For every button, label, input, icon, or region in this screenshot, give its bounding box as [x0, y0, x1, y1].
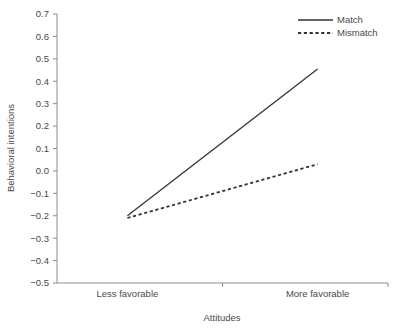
x-axis-ticks [223, 283, 389, 287]
line-chart: 0.70.60.50.40.30.20.10.0−0.1−0.2−0.3−0.4… [0, 0, 404, 330]
y-tick-label: −0.1 [30, 188, 49, 199]
y-tick-label: 0.3 [36, 98, 49, 109]
x-axis-title: Attitudes [204, 312, 241, 323]
chart-legend: MatchMismatch [298, 14, 378, 38]
y-tick-label: 0.7 [36, 8, 49, 19]
x-axis-tick-labels: Less favorableMore favorable [96, 288, 349, 299]
x-tick-label: More favorable [286, 288, 349, 299]
data-series-group [127, 69, 317, 218]
y-tick-label: −0.5 [30, 277, 49, 288]
y-tick-label: 0.0 [36, 165, 49, 176]
legend-label-match: Match [337, 14, 363, 25]
y-tick-label: 0.2 [36, 120, 49, 131]
y-tick-label: −0.4 [30, 255, 49, 266]
y-tick-label: −0.2 [30, 210, 49, 221]
y-tick-label: 0.1 [36, 143, 49, 154]
x-tick-label: Less favorable [96, 288, 158, 299]
legend-label-mismatch: Mismatch [337, 27, 378, 38]
chart-container: 0.70.60.50.40.30.20.10.0−0.1−0.2−0.3−0.4… [0, 0, 404, 330]
y-axis-title: Behavioral intentions [5, 104, 16, 192]
y-tick-label: 0.4 [36, 76, 49, 87]
y-tick-label: 0.6 [36, 31, 49, 42]
y-axis-ticks [53, 14, 57, 283]
y-tick-label: −0.3 [30, 233, 49, 244]
series-line-mismatch [127, 164, 317, 218]
series-line-match [127, 69, 317, 216]
y-axis-tick-labels: 0.70.60.50.40.30.20.10.0−0.1−0.2−0.3−0.4… [30, 8, 49, 288]
y-tick-label: 0.5 [36, 53, 49, 64]
